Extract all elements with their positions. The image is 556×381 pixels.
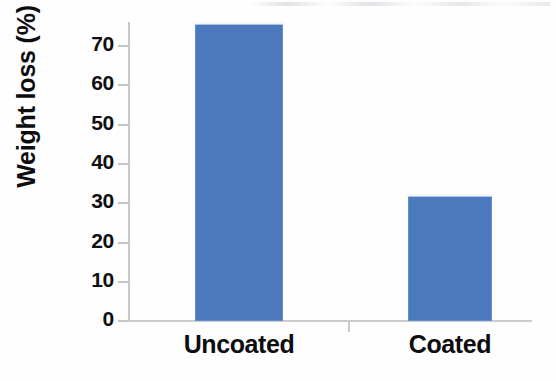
bar-uncoated[interactable]	[195, 24, 283, 321]
y-tick-0	[118, 320, 129, 322]
y-tick-label-50: 50	[68, 111, 114, 135]
y-tick-20	[118, 242, 129, 244]
plot-area	[129, 22, 527, 321]
y-tick-label-40: 40	[68, 150, 114, 174]
scan-artifact-streak	[250, 2, 550, 6]
bar-chart-figure: Weight loss (%) 0 10 20 30 40 50 60 70 U…	[0, 0, 556, 381]
y-tick-label-30: 30	[68, 189, 114, 213]
y-axis-title: Weight loss (%)	[12, 0, 41, 232]
y-tick-label-60: 60	[68, 71, 114, 95]
y-tick-60	[118, 84, 129, 86]
x-axis-label-uncoated: Uncoated	[150, 330, 328, 359]
y-tick-70	[118, 45, 129, 47]
y-tick-40	[118, 163, 129, 165]
y-tick-label-70: 70	[68, 32, 114, 56]
category-separator-tick	[348, 321, 350, 332]
y-tick-10	[118, 281, 129, 283]
y-tick-label-0: 0	[68, 307, 114, 331]
x-axis-label-coated: Coated	[370, 330, 530, 359]
y-tick-label-10: 10	[68, 268, 114, 292]
y-tick-30	[118, 202, 129, 204]
y-tick-50	[118, 124, 129, 126]
bar-coated[interactable]	[408, 196, 492, 321]
y-tick-label-20: 20	[68, 229, 114, 253]
